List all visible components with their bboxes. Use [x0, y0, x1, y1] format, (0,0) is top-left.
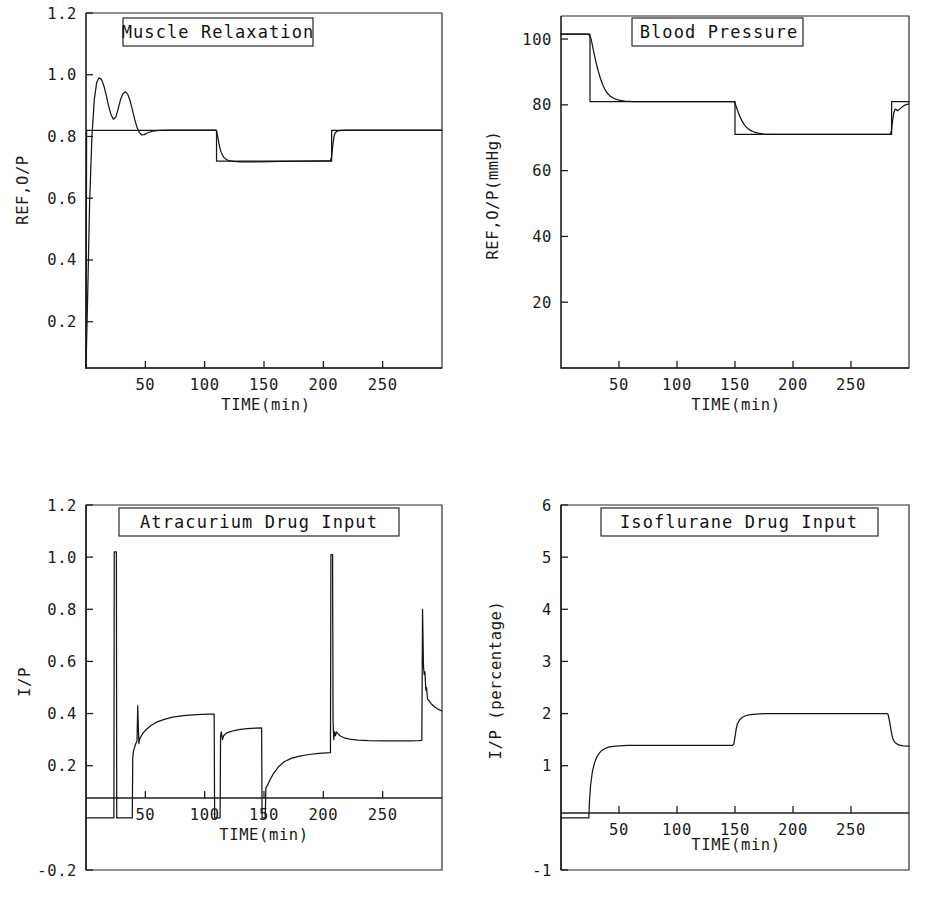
x-tick-label: 200 [778, 376, 808, 394]
x-tick-label: 250 [836, 821, 866, 839]
x-axis-title: TIME(min) [221, 396, 310, 414]
panel-blood-pressure: 20406080100 50100150200250 Blood Pressur… [466, 0, 933, 450]
y-tick-label: 0.8 [47, 128, 77, 146]
y-tick-label: 1.2 [47, 5, 77, 23]
x-axis-atracurium: 50100150200250 [135, 791, 397, 824]
y-tick-label: 100 [522, 31, 552, 49]
y-tick-label: 0.2 [47, 757, 77, 775]
x-axis-title: TIME(min) [219, 826, 308, 844]
panel-title-muscle-relaxation: Muscle Relaxation [122, 18, 315, 46]
x-tick-label: 50 [609, 821, 629, 839]
panel-title-label: Muscle Relaxation [122, 22, 315, 42]
panel-title-label: Blood Pressure [640, 22, 799, 42]
series-output [86, 78, 442, 368]
y-tick-label: -0.2 [37, 862, 77, 880]
x-axis-isoflurane: 50100150200250 [609, 806, 866, 839]
x-tick-label: 150 [720, 376, 750, 394]
y-tick-label: 1.0 [47, 66, 77, 84]
y-tick-label: 1 [542, 757, 552, 775]
y-tick-label: 1.0 [47, 549, 77, 567]
x-tick-label: 150 [249, 806, 279, 824]
y-tick-label: 80 [532, 96, 552, 114]
plot-frame [561, 16, 909, 368]
y-tick-label: 2 [542, 705, 552, 723]
y-tick-label: 0.2 [47, 313, 77, 331]
y-tick-label: 0.4 [47, 705, 77, 723]
y-tick-label: 0.4 [47, 251, 77, 269]
curves-muscle-relaxation [86, 78, 442, 368]
y-tick-label: 0.8 [47, 601, 77, 619]
figure-canvas: 0.20.40.60.81.01.2 50100150200250 Muscle… [0, 0, 933, 899]
y-tick-label: 4 [542, 601, 552, 619]
y-axis-title: I/P (percentage) [487, 601, 505, 760]
atracurium-plot: -0.20.20.40.60.81.01.2 50100150200250 At… [0, 450, 466, 899]
panel-title-blood-pressure: Blood Pressure [632, 18, 803, 46]
y-tick-label: 0.6 [47, 190, 77, 208]
y-axis-title: I/P [16, 667, 34, 697]
y-axis-isoflurane: -1123456 [532, 497, 568, 880]
y-axis-title: REF,O/P [14, 155, 32, 225]
x-tick-label: 100 [662, 376, 692, 394]
x-tick-label: 150 [249, 376, 279, 394]
y-tick-label: 3 [542, 653, 552, 671]
series-reference [561, 34, 909, 134]
curves-atracurium [86, 552, 442, 818]
y-axis-atracurium: -0.20.20.40.60.81.01.2 [37, 497, 93, 880]
blood-pressure-plot: 20406080100 50100150200250 Blood Pressur… [466, 0, 933, 450]
x-tick-label: 50 [135, 376, 155, 394]
y-tick-label: 1.2 [47, 497, 77, 515]
plot-frame [561, 505, 909, 870]
panel-isoflurane-drug-input: -1123456 50100150200250 Isoflurane Drug … [466, 450, 933, 899]
series-atracurium-input [86, 552, 442, 818]
panel-title-label: Atracurium Drug Input [140, 512, 378, 532]
panel-atracurium-drug-input: -0.20.20.40.60.81.01.2 50100150200250 At… [0, 450, 466, 899]
x-axis-muscle-relaxation: 50100150200250 [135, 361, 397, 394]
isoflurane-plot: -1123456 50100150200250 Isoflurane Drug … [466, 450, 933, 899]
x-tick-label: 200 [308, 806, 338, 824]
y-axis-title: REF,O/P(mmHg) [484, 130, 502, 259]
x-tick-label: 200 [308, 376, 338, 394]
panel-title-label: Isoflurane Drug Input [620, 512, 858, 532]
series-reference [86, 130, 442, 368]
x-axis-title: TIME(min) [691, 836, 780, 854]
panel-title-atracurium: Atracurium Drug Input [119, 508, 399, 536]
x-tick-label: 250 [368, 806, 398, 824]
panel-title-isoflurane: Isoflurane Drug Input [601, 508, 878, 536]
x-tick-label: 100 [662, 821, 692, 839]
x-tick-label: 250 [836, 376, 866, 394]
x-axis-title: TIME(min) [691, 396, 780, 414]
x-tick-label: 50 [135, 806, 155, 824]
x-axis-blood-pressure: 50100150200250 [609, 361, 866, 394]
x-tick-label: 200 [778, 821, 808, 839]
series-isoflurane-input [561, 714, 909, 818]
muscle-relaxation-plot: 0.20.40.60.81.01.2 50100150200250 Muscle… [0, 0, 466, 450]
x-tick-label: 50 [609, 376, 629, 394]
plot-frame [86, 13, 442, 368]
y-tick-label: -1 [532, 862, 552, 880]
y-tick-label: 0.6 [47, 653, 77, 671]
curves-isoflurane [561, 714, 909, 818]
y-tick-label: 20 [532, 294, 552, 312]
y-tick-label: 60 [532, 162, 552, 180]
y-tick-label: 5 [542, 549, 552, 567]
x-tick-label: 100 [190, 376, 220, 394]
x-tick-label: 250 [368, 376, 398, 394]
curves-blood-pressure [561, 34, 909, 134]
y-tick-label: 40 [532, 228, 552, 246]
panel-muscle-relaxation: 0.20.40.60.81.01.2 50100150200250 Muscle… [0, 0, 466, 450]
y-tick-label: 6 [542, 497, 552, 515]
